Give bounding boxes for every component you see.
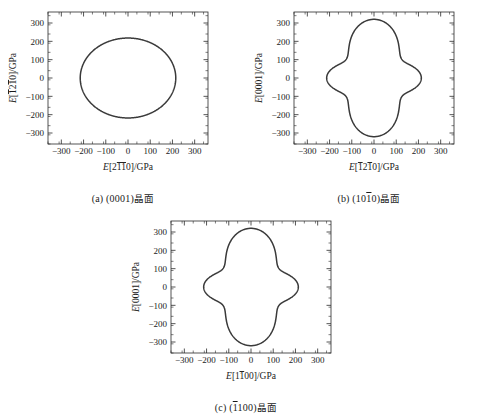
y-tick-label: 300 [277,18,291,28]
x-axis-label: E[2110]/GPa [102,162,154,172]
y-tick-label: 0 [163,282,168,292]
modulus-curve [204,228,299,345]
x-tick-label: 100 [143,146,157,156]
y-axis-label: E[1210]/GPa [8,52,18,104]
y-tick-label: 0 [286,73,291,83]
x-tick-label: 200 [166,146,180,156]
y-tick-label: 200 [154,246,168,256]
x-tick-label: −100 [96,146,115,156]
x-axis-label: E[1210]/GPa [348,162,400,172]
y-tick-label: −300 [271,128,290,138]
y-axis-label: E[0001]/GPa [254,52,264,104]
x-tick-label: 300 [434,146,448,156]
x-axis-label: E[1100]/GPa [225,371,277,381]
plot-frame [171,221,331,353]
y-tick-label: 200 [277,37,291,47]
y-tick-label: −100 [148,301,167,311]
y-tick-label: −100 [271,92,290,102]
x-tick-label: −300 [175,355,194,365]
y-tick-label: −200 [271,110,290,120]
panel-c: −300−300−200−200−100−1000010010020020030… [123,209,369,418]
caption-a-text: (a) (0001)晶面 [92,193,155,204]
y-tick-label: 200 [31,37,45,47]
plot-frame [294,12,454,144]
y-tick-label: 100 [154,264,168,274]
y-tick-label: −200 [148,319,167,329]
modulus-curve [80,38,176,118]
x-tick-label: −200 [320,146,339,156]
figure-root: −300−300−200−200−100−1000010010020020030… [0,0,492,418]
panel-b: −300−300−200−200−100−1000010010020020030… [246,0,492,209]
bottom-crop-artifact [0,409,492,418]
y-tick-label: 300 [31,18,45,28]
y-tick-label: 100 [31,55,45,65]
caption-b-text: (b) (1010)晶面 [337,193,400,204]
caption-a: (a) (0001)晶面 [0,191,246,205]
y-tick-label: −100 [25,92,44,102]
x-tick-label: −100 [342,146,361,156]
x-tick-label: 200 [289,355,303,365]
x-tick-label: 200 [412,146,426,156]
plot-frame [48,12,208,144]
x-tick-label: −300 [52,146,71,156]
plot-c: −300−300−200−200−100−1000010010020020030… [123,209,369,395]
plot-b: −300−300−200−200−100−1000010010020020030… [246,0,492,186]
modulus-curve [327,19,422,136]
plot-c-svg: −300−300−200−200−100−1000010010020020030… [123,209,369,395]
y-tick-label: −300 [148,337,167,347]
x-tick-label: 100 [266,355,280,365]
caption-b: (b) (1010)晶面 [246,191,492,205]
plot-b-content: −300−300−200−200−100−1000010010020020030… [254,12,454,172]
plot-a-content: −300−300−200−200−100−1000010010020020030… [8,12,208,172]
x-tick-label: 0 [372,146,377,156]
x-tick-label: 0 [249,355,254,365]
plot-a-svg: −300−300−200−200−100−1000010010020020030… [0,0,246,186]
plot-a: −300−300−200−200−100−1000010010020020030… [0,0,246,186]
x-tick-label: 300 [311,355,325,365]
x-tick-label: −300 [298,146,317,156]
y-tick-label: 300 [154,227,168,237]
x-tick-label: −200 [74,146,93,156]
x-tick-label: −100 [219,355,238,365]
y-tick-label: 0 [40,73,45,83]
x-tick-label: −200 [197,355,216,365]
x-tick-label: 0 [126,146,131,156]
y-tick-label: 100 [277,55,291,65]
y-axis-label: E[0001]/GPa [131,261,141,313]
x-tick-label: 300 [188,146,202,156]
y-tick-label: −200 [25,110,44,120]
plot-c-content: −300−300−200−200−100−1000010010020020030… [131,221,331,381]
plot-b-svg: −300−300−200−200−100−1000010010020020030… [246,0,492,186]
panel-a: −300−300−200−200−100−1000010010020020030… [0,0,246,209]
y-tick-label: −300 [25,128,44,138]
x-tick-label: 100 [389,146,403,156]
